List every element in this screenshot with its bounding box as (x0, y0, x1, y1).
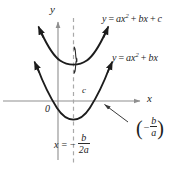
parabola-figure: y x 0 y=ax2+bx+c y=ax2+bx c x=−b2a (−ba) (0, 0, 193, 170)
lower-eq-term2: bx (148, 52, 157, 63)
aos-denominator: 2a (78, 143, 90, 155)
x-intercept-annotation: (−ba) (136, 117, 164, 140)
upper-curve-equation-label: y=ax2+bx+c (102, 14, 162, 24)
aos-numerator: b (78, 133, 90, 144)
axis-of-symmetry-formula: x=−b2a (54, 134, 90, 157)
lower-curve-equation-label: y=ax2+bx (112, 53, 158, 63)
aos-fraction: b2a (78, 133, 90, 156)
lower-parabola-right-arrow (108, 62, 113, 73)
annotation-minus: − (143, 123, 151, 133)
upper-parabola-left-arrow (38, 26, 43, 37)
upper-eq-equals: = (106, 13, 116, 24)
x-axis-label: x (147, 93, 152, 104)
c-offset-label: c (82, 86, 86, 95)
aos-minus: − (70, 139, 78, 150)
annotation-open-paren: ( (136, 120, 143, 136)
upper-eq-term1: ax (116, 13, 125, 24)
lower-parabola-left-arrow (34, 62, 39, 73)
aos-equals: = (58, 139, 70, 150)
upper-eq-term2: bx (138, 13, 147, 24)
c-offset-brace (74, 48, 78, 72)
annotation-close-paren: ) (157, 120, 164, 136)
lower-eq-term1: ax (126, 52, 135, 63)
lower-eq-plus1: + (139, 52, 149, 63)
upper-eq-plus1: + (129, 13, 139, 24)
annotation-denominator: a (150, 126, 157, 138)
upper-eq-plus2: + (148, 13, 158, 24)
origin-label: 0 (45, 104, 50, 114)
y-axis-label: y (50, 4, 55, 15)
upper-parabola-right-arrow (104, 26, 109, 37)
annotation-numerator: b (150, 116, 157, 127)
annotation-fraction: ba (150, 116, 157, 139)
figure-canvas (0, 0, 193, 170)
lower-eq-equals: = (116, 52, 126, 63)
x-intercept-leader-arrow (105, 105, 129, 123)
upper-eq-term3: c (158, 13, 162, 24)
